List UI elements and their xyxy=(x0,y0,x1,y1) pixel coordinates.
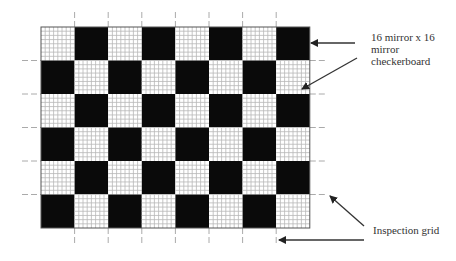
checkerboard-label: 16 mirror x 16 mirror checkerboard xyxy=(371,31,456,67)
mirror-cell-on xyxy=(243,128,277,162)
mirror-cell-on xyxy=(142,27,176,61)
mirror-cell-on xyxy=(75,27,109,61)
inspection-grid-label: Inspection grid xyxy=(373,224,439,236)
mirror-cell-on xyxy=(41,61,75,95)
mirror-cell-on xyxy=(243,195,277,229)
mirror-cell-on xyxy=(209,94,243,128)
mirror-cell-on xyxy=(41,128,75,162)
mirror-cell-on xyxy=(142,161,176,195)
mirror-cell-on xyxy=(108,195,142,229)
mirror-cell-on xyxy=(41,195,75,229)
mirror-cell-on xyxy=(276,27,310,61)
diagram-canvas: 16 mirror x 16 mirror checkerboard Inspe… xyxy=(0,0,456,261)
mirror-cell-on xyxy=(75,94,109,128)
mirror-cell-on xyxy=(209,27,243,61)
mirror-cell-on xyxy=(108,128,142,162)
mirror-cell-on xyxy=(142,94,176,128)
mirror-cell-on xyxy=(175,195,209,229)
mirror-cell-on xyxy=(175,61,209,95)
arrow-to-grid xyxy=(330,196,364,226)
mirror-cell-on xyxy=(276,161,310,195)
mirror-cell-on xyxy=(175,128,209,162)
mirror-cell-on xyxy=(108,61,142,95)
mirror-cell-on xyxy=(209,161,243,195)
mirror-checkerboard xyxy=(41,27,310,228)
mirror-cell-on xyxy=(75,161,109,195)
mirror-cell-on xyxy=(276,94,310,128)
mirror-cell-on xyxy=(243,61,277,95)
